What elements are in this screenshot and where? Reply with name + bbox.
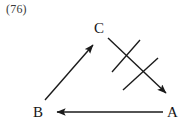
figure-page: (76) C B A (0, 0, 193, 127)
edge-b-to-c (45, 45, 93, 100)
cross-mark-upper-icon (112, 40, 140, 72)
edges-layer (45, 38, 166, 112)
edge-c-to-a (108, 38, 166, 93)
node-label-b: B (33, 105, 43, 120)
node-label-a: A (167, 105, 178, 120)
node-label-c: C (94, 21, 104, 36)
cross-mark-lower-icon (123, 58, 158, 90)
